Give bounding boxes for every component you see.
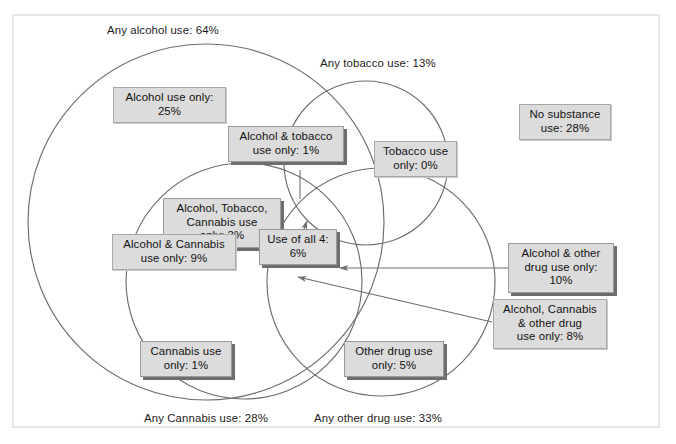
label-line-2: only: 1% [147, 359, 225, 373]
label-line-1: Use of all 4: [266, 233, 330, 247]
outer-label-any-cannabis: Any Cannabis use: 28% [144, 412, 268, 424]
label-box-otherdrug-only: Other drug use only: 5% [344, 341, 444, 377]
label-line-1: Alcohol, Tobacco, [170, 202, 274, 216]
label-line-2: Cannabis use [170, 216, 274, 230]
label-line-1: Alcohol & tobacco [235, 130, 337, 144]
label-line-1: Alcohol & Cannabis [119, 238, 229, 252]
label-line-1: Cannabis use [147, 345, 225, 359]
label-box-alcohol-tobacco-only: Alcohol & tobacco use only: 1% [228, 126, 344, 162]
label-line-1: Alcohol use only: [120, 91, 219, 105]
label-line-1: Alcohol & other [515, 247, 607, 261]
label-line-2: 25% [120, 105, 219, 119]
label-box-use-of-all-four: Use of all 4: 6% [259, 229, 337, 265]
label-line-2: 6% [266, 247, 330, 261]
label-line-2: use: 28% [526, 122, 604, 136]
label-box-alcohol-cannabis-otherdrug-only: Alcohol, Cannabis & other drug use only:… [493, 299, 607, 349]
label-box-cannabis-only: Cannabis use only: 1% [140, 341, 232, 377]
label-box-alcohol-otherdrug-only: Alcohol & other drug use only: 10% [508, 243, 614, 293]
outer-label-any-alcohol: Any alcohol use: 64% [107, 24, 219, 36]
label-line-1: Alcohol, Cannabis [500, 303, 600, 317]
label-box-no-substance-use: No substance use: 28% [519, 104, 611, 140]
label-box-tobacco-only: Tobacco use only: 0% [374, 141, 457, 177]
label-line-2: only: 0% [381, 159, 450, 173]
label-line-2: & other drug [500, 317, 600, 331]
label-box-alcohol-only: Alcohol use only: 25% [113, 87, 226, 123]
label-line-2: drug use only: [515, 261, 607, 275]
label-line-2: use only: 9% [119, 252, 229, 266]
label-line-2: use only: 1% [235, 144, 337, 158]
label-line-2: only: 5% [351, 359, 437, 373]
label-line-1: No substance [526, 108, 604, 122]
outer-label-any-tobacco: Any tobacco use: 13% [320, 57, 436, 69]
label-line-1: Tobacco use [381, 145, 450, 159]
label-line-3: use only: 8% [500, 330, 600, 344]
venn-diagram-figure: Any alcohol use: 64% Any tobacco use: 13… [0, 0, 676, 444]
outer-label-any-otherdrug: Any other drug use: 33% [314, 412, 442, 424]
label-line-1: Other drug use [351, 345, 437, 359]
label-box-alcohol-cannabis-only: Alcohol & Cannabis use only: 9% [112, 234, 236, 270]
arrow-alcohol-cannabis-otherdrug [298, 277, 492, 322]
label-line-3: 10% [515, 274, 607, 288]
